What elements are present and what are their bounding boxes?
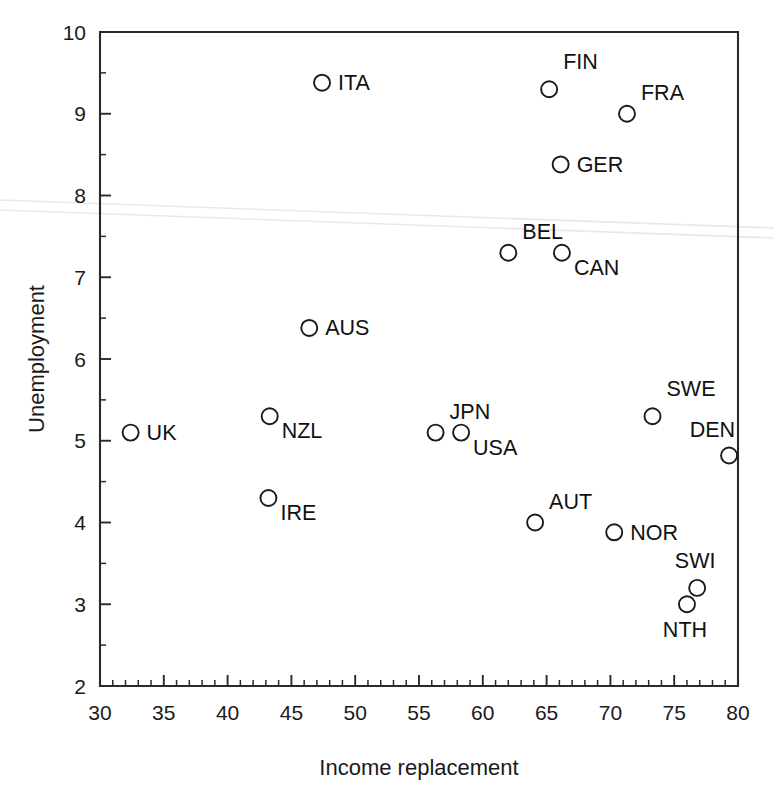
point-label-fra: FRA [641, 81, 685, 105]
point-label-nor: NOR [630, 521, 678, 545]
point-label-fin: FIN [563, 50, 598, 74]
marker-circle [541, 81, 557, 97]
marker-circle [553, 156, 569, 172]
data-point-nzl: NZL [262, 408, 323, 443]
y-tick-label: 8 [74, 184, 86, 207]
data-point-ita: ITA [314, 71, 371, 95]
x-axis-title: Income replacement [319, 755, 518, 780]
point-label-usa: USA [473, 436, 518, 460]
x-tick-label: 75 [663, 701, 686, 724]
data-point-den: DEN [690, 418, 737, 463]
x-tick-label: 30 [88, 701, 111, 724]
x-tick-label: 40 [216, 701, 239, 724]
plot-frame [100, 32, 738, 686]
x-tick-label: 50 [344, 701, 367, 724]
marker-circle [645, 408, 661, 424]
marker-circle [428, 425, 444, 441]
plot-axes [100, 32, 738, 686]
y-tick-label: 7 [74, 266, 86, 289]
data-point-ire: IRE [260, 490, 316, 525]
marker-circle [314, 75, 330, 91]
point-label-ger: GER [577, 153, 624, 177]
x-tick-label: 45 [280, 701, 303, 724]
marker-circle [453, 425, 469, 441]
y-tick-label: 5 [74, 429, 86, 452]
axis-ticks [100, 32, 738, 686]
point-label-aus: AUS [325, 316, 369, 340]
data-point-jpn: JPN [428, 400, 491, 441]
point-label-swi: SWI [675, 549, 716, 573]
marker-circle [619, 106, 635, 122]
marker-circle [721, 447, 737, 463]
y-tick-label: 3 [74, 593, 86, 616]
plot-canvas: 23456789103035404550556065707580 UKIRENZ… [0, 0, 774, 801]
data-point-aus: AUS [301, 316, 369, 340]
point-label-uk: UK [147, 421, 178, 445]
point-label-bel: BEL [522, 220, 563, 244]
y-tick-label: 2 [74, 675, 86, 698]
point-label-ire: IRE [280, 501, 316, 525]
marker-circle [301, 320, 317, 336]
data-point-nth: NTH [663, 596, 707, 642]
data-point-nor: NOR [606, 521, 678, 545]
x-tick-label: 60 [471, 701, 494, 724]
marker-circle [554, 245, 570, 261]
marker-circle [500, 245, 516, 261]
point-label-den: DEN [690, 418, 735, 442]
data-points: UKIRENZLAUSITAJPNUSABELAUTFINCANGERNORFR… [123, 50, 737, 642]
y-axis-title: Unemployment [24, 285, 49, 433]
marker-circle [606, 524, 622, 540]
point-label-nth: NTH [663, 618, 707, 642]
x-tick-label: 65 [535, 701, 558, 724]
marker-circle [689, 580, 705, 596]
data-point-usa: USA [453, 425, 518, 460]
marker-circle [527, 515, 543, 531]
marker-circle [260, 490, 276, 506]
data-point-fin: FIN [541, 50, 598, 97]
y-tick-label: 10 [63, 21, 86, 44]
y-tick-label: 9 [74, 102, 86, 125]
axis-tick-labels: 23456789103035404550556065707580 [63, 21, 750, 725]
data-point-fra: FRA [619, 81, 685, 122]
point-label-aut: AUT [549, 490, 592, 514]
y-tick-label: 4 [74, 511, 86, 534]
marker-circle [262, 408, 278, 424]
scan-crease-artifact [0, 200, 774, 238]
y-tick-label: 6 [74, 348, 86, 371]
point-label-can: CAN [574, 256, 619, 280]
point-label-nzl: NZL [282, 419, 323, 443]
data-point-uk: UK [123, 421, 178, 445]
x-tick-label: 35 [152, 701, 175, 724]
point-label-jpn: JPN [450, 400, 491, 424]
data-point-swi: SWI [675, 549, 716, 596]
point-label-swe: SWE [667, 377, 716, 401]
x-tick-label: 70 [599, 701, 622, 724]
data-point-can: CAN [554, 245, 619, 280]
point-label-ita: ITA [338, 71, 371, 95]
x-tick-label: 55 [407, 701, 430, 724]
scatter-plot-figure: 23456789103035404550556065707580 UKIRENZ… [0, 0, 774, 801]
data-point-aut: AUT [527, 490, 592, 531]
marker-circle [679, 596, 695, 612]
marker-circle [123, 425, 139, 441]
x-tick-label: 80 [726, 701, 749, 724]
data-point-ger: GER [553, 153, 624, 177]
data-point-swe: SWE [645, 377, 716, 424]
